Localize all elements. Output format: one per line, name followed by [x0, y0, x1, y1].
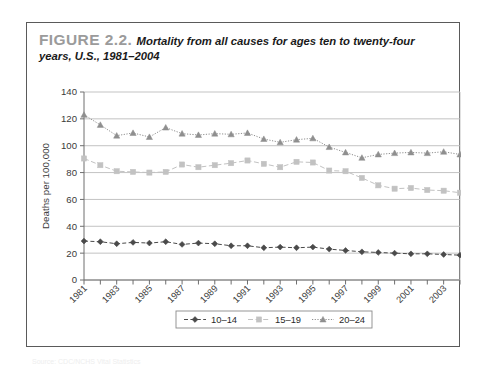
data-point-1983-0: [114, 241, 120, 247]
x-tick-label-1983: 1983: [100, 283, 122, 305]
data-point-1999-0: [375, 250, 381, 256]
data-point-2004-1: [457, 190, 461, 195]
series-line-1: [84, 158, 460, 192]
data-point-1982-2: [97, 122, 103, 128]
data-point-1999-2: [375, 151, 381, 157]
x-tick-label-1989: 1989: [198, 283, 220, 305]
y-tick-label-120: 120: [61, 113, 77, 124]
x-tick-label-1993: 1993: [264, 283, 286, 305]
data-point-2003-2: [441, 149, 447, 155]
y-tick-label-80: 80: [66, 167, 77, 178]
data-point-1997-1: [343, 169, 348, 174]
data-point-2004-2: [457, 151, 461, 157]
x-tick-label-1985: 1985: [133, 283, 155, 305]
y-tick-label-60: 60: [66, 194, 77, 205]
data-point-1987-0: [179, 242, 185, 248]
data-point-1986-1: [163, 169, 168, 174]
data-point-1984-2: [130, 130, 136, 136]
data-point-1998-1: [359, 175, 364, 180]
data-point-2000-1: [392, 186, 397, 191]
data-point-1997-0: [343, 248, 349, 254]
data-point-2001-1: [408, 185, 413, 190]
y-tick-label-20: 20: [66, 248, 77, 259]
x-tick-label-1991: 1991: [231, 283, 253, 305]
data-point-1982-1: [98, 163, 103, 168]
series-line-2: [84, 115, 460, 158]
data-point-1990-1: [229, 161, 234, 166]
y-tick-label-100: 100: [61, 140, 77, 151]
data-point-1985-0: [146, 240, 152, 246]
data-point-2003-0: [441, 252, 447, 258]
series-15-19: [81, 156, 461, 195]
data-point-1987-1: [179, 162, 184, 167]
data-point-2000-0: [392, 250, 398, 256]
y-axis-title: Deaths per 100,000: [40, 142, 51, 229]
legend-label-2: 20–24: [339, 314, 365, 325]
data-point-1988-1: [196, 165, 201, 170]
data-point-1986-0: [163, 239, 169, 245]
data-point-1996-2: [326, 144, 332, 150]
data-point-1996-0: [326, 246, 332, 252]
data-point-1995-1: [310, 160, 315, 165]
legend-label-1: 15–19: [275, 314, 301, 325]
x-tick-label-1999: 1999: [362, 283, 384, 305]
data-point-1998-0: [359, 249, 365, 255]
data-point-1985-2: [146, 134, 152, 140]
data-point-2003-1: [441, 188, 446, 193]
data-point-1995-0: [310, 244, 316, 250]
y-tick-label-0: 0: [72, 274, 77, 285]
data-point-1990-0: [228, 243, 234, 249]
legend-marker-1: [256, 317, 261, 322]
data-point-1981-2: [81, 112, 87, 118]
data-point-1993-0: [277, 244, 283, 250]
data-point-2002-1: [425, 187, 430, 192]
y-tick-label-40: 40: [66, 221, 77, 232]
source-note: Source: CDC/NCHS Vital Statistics: [32, 358, 140, 365]
chart-plot-area: 020406080100120140Deaths per 100,0001981…: [27, 23, 461, 348]
x-tick-label-1981: 1981: [67, 283, 89, 305]
x-tick-label-2001: 2001: [394, 283, 416, 305]
data-point-1991-1: [245, 158, 250, 163]
data-point-1986-2: [163, 124, 169, 130]
figure-frame: FIGURE 2.2. Mortality from all causes fo…: [26, 22, 460, 347]
data-point-1989-1: [212, 163, 217, 168]
data-point-1993-1: [278, 165, 283, 170]
data-point-1985-1: [147, 170, 152, 175]
data-point-1991-0: [245, 243, 251, 249]
data-point-1999-1: [376, 183, 381, 188]
legend-label-0: 10–14: [211, 314, 237, 325]
series-10-14: [81, 238, 461, 258]
data-point-1992-0: [261, 245, 267, 251]
x-tick-label-1997: 1997: [329, 283, 351, 305]
data-point-1981-1: [81, 156, 86, 161]
data-point-1988-0: [196, 240, 202, 246]
data-point-1983-1: [114, 169, 119, 174]
data-point-1984-0: [130, 240, 136, 246]
data-point-1981-0: [81, 238, 87, 244]
data-point-1984-1: [130, 169, 135, 174]
y-tick-label-140: 140: [61, 86, 77, 97]
mortality-line-chart: 020406080100120140Deaths per 100,0001981…: [27, 23, 461, 348]
data-point-1996-1: [327, 168, 332, 173]
x-tick-label-1995: 1995: [296, 283, 318, 305]
data-point-2002-0: [424, 251, 430, 257]
data-point-1989-0: [212, 241, 218, 247]
data-point-1995-2: [310, 135, 316, 141]
data-point-1997-2: [342, 149, 348, 155]
data-point-1992-1: [261, 161, 266, 166]
x-tick-label-1987: 1987: [165, 283, 187, 305]
data-point-2001-0: [408, 251, 414, 257]
data-point-1994-0: [294, 245, 300, 251]
x-tick-label-2003: 2003: [427, 283, 449, 305]
data-point-1991-2: [244, 130, 250, 136]
data-point-1982-0: [97, 239, 103, 245]
data-point-1994-1: [294, 159, 299, 164]
